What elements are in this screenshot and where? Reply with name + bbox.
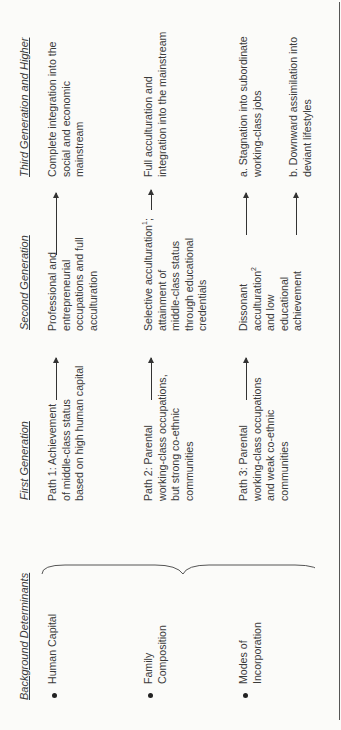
footnote-marker: 1: [141, 221, 148, 225]
determinant-family-composition: Family Composition: [142, 625, 169, 684]
header-third-generation: Third Generation and Higher: [18, 38, 30, 177]
header-first-generation: First Generation: [18, 421, 30, 500]
path2-second-generation: Selective acculturation1; attainment of …: [142, 218, 210, 331]
arrow-right-icon: [151, 190, 152, 210]
path3-second-generation: Dissonant acculturation2 and low educati…: [237, 267, 305, 331]
bullet-icon: [148, 693, 153, 698]
footnote-marker: 2: [250, 267, 257, 271]
path1-second-generation: Professional and entrepreneurial occupat…: [46, 237, 100, 331]
determinant-modes-of-incorporation: Modes of Incorporation: [237, 622, 264, 684]
arrow-right-icon: [151, 358, 152, 400]
path2-third-generation: Full acculturation and integration into …: [142, 32, 169, 177]
arrow-right-icon: [296, 193, 297, 235]
header-background-determinants: Background Determinants: [18, 573, 30, 700]
path1-third-generation: Complete integration into the social and…: [46, 42, 87, 177]
path1-first-generation: Path 1: Achievement of middle-class stat…: [46, 366, 87, 501]
arrow-right-icon: [56, 193, 57, 255]
path3-second-text: Dissonant acculturation: [237, 271, 263, 331]
path2-second-text: Selective acculturation: [142, 225, 154, 331]
arrow-right-icon: [56, 358, 57, 400]
arrow-right-icon: [246, 193, 247, 235]
path3-third-generation-b: b. Downward assimilation into deviant li…: [287, 37, 314, 177]
bottom-rule-divider: [339, 2, 340, 720]
header-second-generation: Second Generation: [18, 235, 30, 330]
curly-brace-icon: [25, 563, 315, 575]
path3-third-generation-a: a. Stagnation into subordinate working-c…: [237, 36, 264, 177]
bullet-icon: [243, 693, 248, 698]
bullet-icon: [52, 693, 57, 698]
rotated-diagram-page: Background Determinants First Generation…: [0, 0, 341, 730]
arrow-right-icon: [246, 358, 247, 400]
determinant-human-capital: Human Capital: [46, 614, 60, 684]
path3-second-text-rest: and low educational achievement: [264, 271, 303, 331]
